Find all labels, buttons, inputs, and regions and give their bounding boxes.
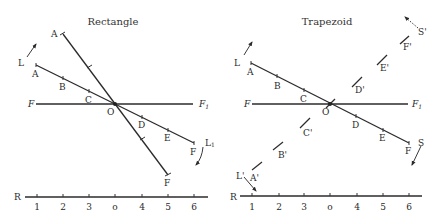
- label-a-lower: A: [31, 69, 39, 79]
- ruler-tick-label: 5: [165, 202, 171, 212]
- ruler-label: R: [14, 192, 21, 202]
- label-c: C: [85, 95, 92, 105]
- label-f-axis-left: F: [27, 99, 35, 109]
- label-f-axis-left: F: [243, 99, 251, 109]
- label-a: A: [246, 67, 254, 77]
- label-o: O: [107, 107, 114, 117]
- ruler-tick-label: 6: [191, 202, 197, 212]
- panel-title: Trapezoid: [302, 16, 353, 27]
- rectangle-panel: Rectangle A L A B C F F1 O D E F L1: [14, 16, 215, 212]
- ruler-tick-label: 3: [301, 202, 307, 212]
- label-f-bottom: F: [164, 178, 170, 188]
- ruler-tick-label: o: [112, 202, 117, 212]
- ruler-label: R: [230, 192, 237, 202]
- label-l1: L1: [205, 138, 215, 148]
- tick-mark: [60, 32, 65, 35]
- ruler-tick-label: 4: [139, 202, 145, 212]
- label-l: L: [18, 58, 24, 68]
- segment-a-prime: [252, 162, 262, 170]
- label-s-prime: S': [418, 27, 427, 37]
- label-c: C: [300, 94, 307, 104]
- arrow-up-left-icon: [405, 17, 418, 28]
- label-s: S: [418, 138, 424, 148]
- label-d-prime: D': [355, 85, 365, 95]
- origin-point: [113, 102, 117, 106]
- label-l: L: [234, 58, 240, 68]
- label-f-prime: F': [403, 42, 412, 52]
- label-a-prime: A': [249, 173, 259, 183]
- ruler-tick-label: o: [327, 202, 332, 212]
- ruler-tick-label: 2: [276, 202, 282, 212]
- panel-title: Rectangle: [88, 16, 139, 27]
- label-d: D: [138, 120, 145, 130]
- ruler: R 1 2 3 o 4 5 6: [14, 192, 208, 212]
- label-e: E: [164, 133, 171, 143]
- label-b: B: [274, 81, 281, 91]
- arrow-up-icon: [244, 42, 252, 55]
- tick-mark: [165, 173, 171, 176]
- diagram-canvas: Rectangle A L A B C F F1 O D E F L1: [0, 0, 440, 218]
- label-b-prime: B': [278, 150, 287, 160]
- label-d: D: [352, 120, 359, 130]
- segment-b-prime: [273, 142, 283, 150]
- label-e-prime: E': [380, 63, 389, 73]
- label-a-upper: A: [50, 29, 58, 39]
- ruler: R 1 2 3 o 4 5 6: [230, 192, 422, 212]
- segment-c-prime: [300, 118, 310, 128]
- label-f1-axis-right: F1: [198, 99, 209, 110]
- trapezoid-panel: Trapezoid L A B C F F1 O D: [230, 16, 427, 212]
- label-f: F: [405, 146, 411, 156]
- ruler-tick-label: 2: [60, 202, 66, 212]
- label-c-prime: C': [303, 128, 312, 138]
- label-f-right: F: [190, 147, 196, 157]
- label-f1-axis-right: F1: [411, 99, 422, 110]
- ruler-tick-label: 1: [249, 202, 255, 212]
- arrow-down-icon: [412, 146, 421, 165]
- label-b: B: [59, 82, 66, 92]
- ruler-tick-label: 3: [86, 202, 92, 212]
- label-l-prime: L': [236, 171, 244, 181]
- ruler-tick-label: 1: [34, 202, 40, 212]
- ruler-tick-label: 4: [354, 202, 360, 212]
- label-o: O: [322, 107, 329, 117]
- ruler-tick-label: 6: [406, 202, 412, 212]
- arrow-down-icon: [196, 147, 203, 165]
- label-e: E: [379, 133, 386, 143]
- arrow-up-icon: [27, 44, 36, 57]
- ruler-tick-label: 5: [380, 202, 386, 212]
